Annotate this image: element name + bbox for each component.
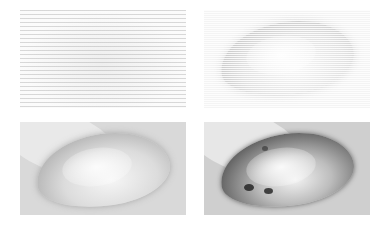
dark-speckle <box>244 184 254 191</box>
panel-bottom-left-smooth: smooth low-contrast reconstruction of ov… <box>20 122 186 215</box>
faint-object-shading <box>20 10 186 108</box>
panel-bottom-right-contrast: high-contrast reconstruction of oval obj… <box>204 122 370 215</box>
panel-top-right-line-scan: line scan with faint oval object <box>204 10 370 108</box>
dark-speckle <box>262 146 268 151</box>
dark-speckle <box>264 188 273 194</box>
panel-top-left-line-scan: heavily undersampled line scan, object b… <box>20 10 186 108</box>
